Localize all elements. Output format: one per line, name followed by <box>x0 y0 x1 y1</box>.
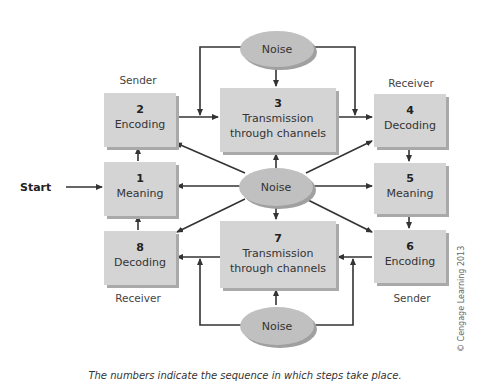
noise-center: Noise <box>239 168 316 209</box>
role-bottom-right: Sender <box>393 292 431 304</box>
box-4-label: Decoding <box>384 119 436 132</box>
box-7-transmission: 7 Transmission through channels <box>220 221 339 291</box>
box-6-label: Encoding <box>385 255 436 268</box>
box-8-decoding: 8 Decoding <box>104 231 179 288</box>
box-3-line2: through channels <box>230 127 326 140</box>
box-4-decoding: 4 Decoding <box>374 94 449 150</box>
caption: The numbers indicate the sequence in whi… <box>88 370 401 381</box>
box-2-number: 2 <box>136 103 144 116</box>
noise-top-label: Noise <box>262 43 293 56</box>
noise-bottom: Noise <box>240 307 317 348</box>
box-6-encoding: 6 Encoding <box>374 230 449 286</box>
box-7-line2: through channels <box>230 262 326 275</box>
box-7-line1: Transmission <box>241 247 313 260</box>
box-3-number: 3 <box>274 97 282 110</box>
box-1-meaning: 1 Meaning <box>104 162 179 219</box>
box-2-label: Encoding <box>115 118 166 131</box>
role-top-left: Sender <box>119 74 157 86</box>
start-label: Start <box>20 181 51 194</box>
box-5-number: 5 <box>406 172 414 185</box>
communication-process-diagram: 2 Encoding 1 Meaning 8 Decoding 3 Transm… <box>0 0 484 385</box>
role-top-right: Receiver <box>388 77 434 89</box>
box-5-meaning: 5 Meaning <box>374 163 449 217</box>
box-5-label: Meaning <box>387 187 434 200</box>
box-3-transmission: 3 Transmission through channels <box>220 88 339 155</box>
box-2-encoding: 2 Encoding <box>104 93 179 150</box>
box-1-label: Meaning <box>117 187 164 200</box>
copyright: © Cengage Learning 2013 <box>457 246 466 352</box>
box-7-number: 7 <box>274 232 282 245</box>
box-8-label: Decoding <box>114 256 166 269</box>
box-3-line1: Transmission <box>241 112 313 125</box>
noise-top: Noise <box>240 31 317 70</box>
box-1-number: 1 <box>136 172 144 185</box>
box-4-number: 4 <box>406 104 414 117</box>
noise-bottom-label: Noise <box>262 320 293 333</box>
box-6-number: 6 <box>406 240 414 253</box>
noise-center-label: Noise <box>261 181 292 194</box>
box-8-number: 8 <box>136 241 144 254</box>
role-bottom-left: Receiver <box>115 292 161 304</box>
